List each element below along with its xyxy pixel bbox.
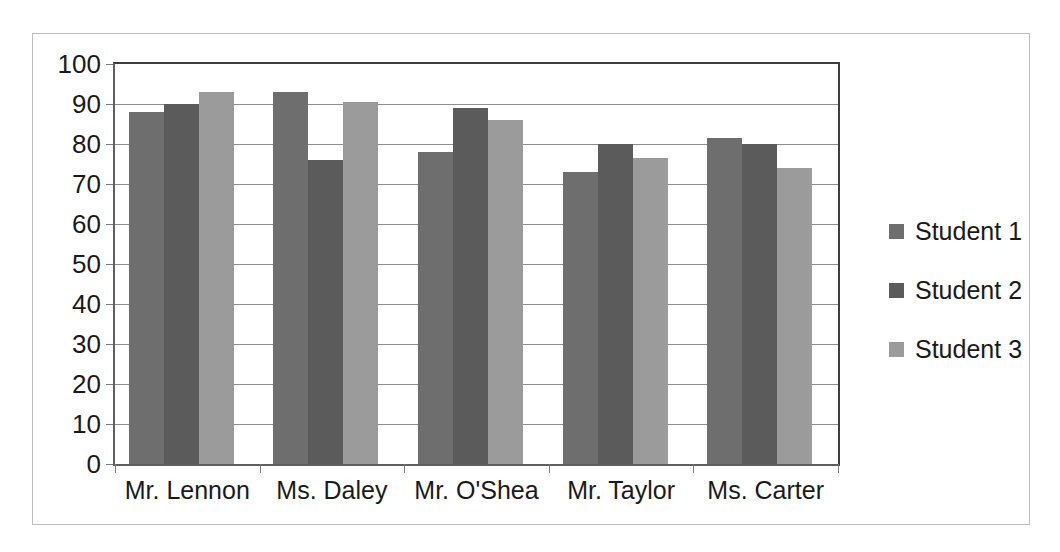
x-axis-category-label: Mr. O'Shea [404, 478, 549, 503]
bar[interactable] [633, 158, 668, 464]
y-axis-tick [106, 184, 113, 185]
bar[interactable] [563, 172, 598, 464]
y-axis-label: 40 [72, 291, 101, 317]
bar[interactable] [453, 108, 488, 464]
bar[interactable] [598, 144, 633, 464]
legend-label: Student 3 [915, 337, 1022, 362]
x-axis-tick [693, 464, 694, 473]
bar[interactable] [488, 120, 523, 464]
bar[interactable] [164, 104, 199, 464]
x-axis-tick [115, 464, 116, 473]
legend-label: Student 2 [915, 278, 1022, 303]
x-axis-category-label: Mr. Lennon [115, 478, 260, 503]
x-axis-tick [549, 464, 550, 473]
y-axis-label: 50 [72, 251, 101, 277]
bar-group [549, 64, 694, 464]
legend-swatch-icon [889, 224, 904, 239]
bar[interactable] [308, 160, 343, 464]
bar[interactable] [273, 92, 308, 464]
bar[interactable] [742, 144, 777, 464]
legend-swatch-icon [889, 283, 904, 298]
y-axis-label: 80 [72, 131, 101, 157]
y-axis-tick [106, 384, 113, 385]
y-axis-tick [106, 104, 113, 105]
y-axis-tick [106, 344, 113, 345]
x-axis-category-label: Ms. Daley [260, 478, 405, 503]
chart-frame: 0102030405060708090100 Mr. LennonMs. Dal… [32, 33, 1030, 525]
legend-item[interactable]: Student 3 [889, 337, 1022, 362]
y-axis-label: 0 [87, 451, 101, 477]
legend-item[interactable]: Student 1 [889, 219, 1022, 244]
legend-item[interactable]: Student 2 [889, 278, 1022, 303]
bar[interactable] [343, 102, 378, 464]
legend-swatch-icon [889, 342, 904, 357]
bar[interactable] [707, 138, 742, 464]
bar-group [693, 64, 838, 464]
bar[interactable] [129, 112, 164, 464]
bar[interactable] [199, 92, 234, 464]
bar[interactable] [777, 168, 812, 464]
bar-group [260, 64, 405, 464]
y-axis-tick [106, 424, 113, 425]
y-axis-label: 90 [72, 91, 101, 117]
x-axis-tick [260, 464, 261, 473]
y-axis-label: 70 [72, 171, 101, 197]
y-axis-label: 30 [72, 331, 101, 357]
y-axis-tick [106, 64, 113, 65]
x-axis-tick [404, 464, 405, 473]
bar[interactable] [418, 152, 453, 464]
legend-label: Student 1 [915, 219, 1022, 244]
y-axis-tick [106, 304, 113, 305]
y-axis-label: 100 [58, 51, 101, 77]
plot-area: 0102030405060708090100 Mr. LennonMs. Dal… [113, 62, 840, 466]
y-axis-tick [106, 464, 113, 465]
x-axis-category-label: Ms. Carter [693, 478, 838, 503]
bar-group [115, 64, 260, 464]
y-axis-tick [106, 224, 113, 225]
x-axis-tick [838, 464, 839, 473]
y-axis-label: 20 [72, 371, 101, 397]
y-axis-label: 10 [72, 411, 101, 437]
y-axis-tick [106, 264, 113, 265]
y-axis-tick [106, 144, 113, 145]
legend: Student 1Student 2Student 3 [889, 219, 1022, 362]
x-axis-category-label: Mr. Taylor [549, 478, 694, 503]
y-axis-label: 60 [72, 211, 101, 237]
bar-group [404, 64, 549, 464]
